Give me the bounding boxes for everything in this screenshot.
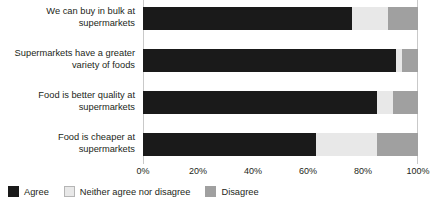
bar-row bbox=[143, 133, 418, 156]
bar-segment-disagree bbox=[377, 133, 418, 156]
plot-area bbox=[143, 0, 418, 164]
category-label-3: Food is cheaper at supermarkets bbox=[0, 132, 135, 155]
category-label-1-line1: Supermarkets have a greater bbox=[0, 48, 135, 60]
bar-row bbox=[143, 49, 418, 72]
category-label-0-line2: supermarkets bbox=[0, 18, 135, 30]
bar-segment-neither bbox=[377, 91, 394, 114]
x-tick-0: 0% bbox=[136, 166, 149, 176]
legend-swatch-icon bbox=[205, 186, 216, 197]
bar-segment-disagree bbox=[388, 7, 418, 30]
legend-item-agree: Agree bbox=[8, 186, 49, 197]
x-tick-1: 20% bbox=[189, 166, 207, 176]
category-label-1: Supermarkets have a greater variety of f… bbox=[0, 48, 135, 71]
bar-segment-neither bbox=[316, 133, 377, 156]
legend-item-disagree: Disagree bbox=[205, 186, 258, 197]
legend-swatch-icon bbox=[8, 186, 19, 197]
x-axis: 0% 20% 40% 60% 80% 100% bbox=[143, 164, 418, 180]
category-label-3-line1: Food is cheaper at bbox=[0, 132, 135, 144]
bar-segment-agree bbox=[143, 133, 316, 156]
legend-label: Neither agree nor disagree bbox=[80, 187, 191, 197]
stacked-bar-chart: We can buy in bulk at supermarkets Super… bbox=[0, 0, 437, 206]
x-tick-4: 80% bbox=[354, 166, 372, 176]
bar-segment-agree bbox=[143, 7, 352, 30]
bar-segment-agree bbox=[143, 49, 396, 72]
category-label-1-line2: variety of foods bbox=[0, 60, 135, 72]
bar-segment-agree bbox=[143, 91, 377, 114]
category-label-0-line1: We can buy in bulk at bbox=[0, 6, 135, 18]
bar-segment-disagree bbox=[393, 91, 418, 114]
x-tick-5: 100% bbox=[406, 166, 429, 176]
category-label-2-line2: supermarkets bbox=[0, 102, 135, 114]
legend-label: Agree bbox=[24, 187, 49, 197]
x-tick-2: 40% bbox=[244, 166, 262, 176]
bar-row bbox=[143, 91, 418, 114]
category-label-0: We can buy in bulk at supermarkets bbox=[0, 6, 135, 29]
bar-segment-neither bbox=[352, 7, 388, 30]
bar-row bbox=[143, 7, 418, 30]
category-label-2: Food is better quality at supermarkets bbox=[0, 90, 135, 113]
legend-item-neither: Neither agree nor disagree bbox=[64, 186, 191, 197]
x-tick-3: 60% bbox=[299, 166, 317, 176]
bar-segment-disagree bbox=[402, 49, 419, 72]
category-label-3-line2: supermarkets bbox=[0, 144, 135, 156]
legend-label: Disagree bbox=[221, 187, 258, 197]
category-label-2-line1: Food is better quality at bbox=[0, 90, 135, 102]
chart-legend: Agree Neither agree nor disagree Disagre… bbox=[8, 186, 268, 197]
legend-swatch-icon bbox=[64, 186, 75, 197]
